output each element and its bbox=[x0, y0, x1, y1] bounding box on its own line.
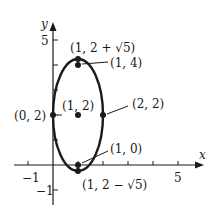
ellipse-diagram: −1 5 x 5 −1 y (1, 2 + √5) (1, 4) (1, 2) … bbox=[0, 0, 212, 218]
point-left-covertex bbox=[50, 112, 56, 118]
y-tick-5: 5 bbox=[41, 34, 49, 48]
point-top-vertex bbox=[75, 56, 81, 62]
x-tick-5: 5 bbox=[174, 171, 182, 185]
label-top-vertex: (1, 2 + √5) bbox=[70, 41, 135, 55]
point-focus-lower bbox=[75, 162, 81, 168]
y-axis-label: y bbox=[40, 17, 48, 31]
label-focus-lower: (1, 0) bbox=[110, 142, 142, 156]
leader-focus-lower bbox=[82, 151, 108, 163]
label-left-covertex: (0, 2) bbox=[14, 109, 46, 123]
leader-right-covertex bbox=[107, 106, 128, 114]
point-bottom-vertex bbox=[75, 168, 81, 174]
x-axis-label: x bbox=[199, 148, 206, 162]
y-arrow-icon bbox=[50, 22, 57, 31]
label-right-covertex: (2, 2) bbox=[132, 97, 164, 111]
point-focus-upper bbox=[75, 62, 81, 68]
x-arrow-icon bbox=[195, 162, 204, 169]
label-center: (1, 2) bbox=[62, 99, 94, 113]
y-tick-neg1: −1 bbox=[36, 184, 54, 198]
label-focus-upper: (1, 4) bbox=[110, 56, 142, 70]
x-tick-neg1: −1 bbox=[22, 171, 40, 185]
label-bottom-vertex: (1, 2 − √5) bbox=[82, 178, 147, 192]
point-right-covertex bbox=[100, 112, 106, 118]
